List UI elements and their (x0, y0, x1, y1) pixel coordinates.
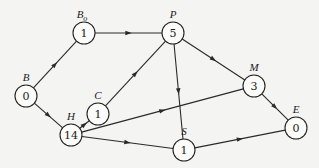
node-value: 1 (81, 27, 88, 40)
edge-m-to-e (262, 94, 288, 120)
node-s: 1S (173, 125, 195, 161)
node-label: E (292, 103, 300, 115)
node-label: H (66, 110, 76, 122)
edge-b-to-h (34, 103, 62, 128)
node-label: Bo (77, 8, 88, 23)
node-p: 5P (162, 8, 184, 44)
arrowhead-icon (124, 140, 131, 144)
edge-p-to-m (182, 39, 245, 80)
node-label: S (181, 125, 187, 137)
node-e: 0E (285, 103, 307, 139)
node-c: 1C (87, 89, 109, 125)
node-h: 14H (60, 110, 82, 146)
edge-b-to-bo (33, 41, 76, 88)
diagram-canvas: 0B1Bo5P1C14H3M1S0E (0, 0, 319, 168)
node-value: 0 (293, 122, 300, 135)
node-label: P (169, 8, 177, 20)
edge-s-to-e (195, 130, 285, 148)
node-bo: 1Bo (73, 8, 95, 44)
arrowhead-icon (125, 31, 131, 35)
node-label: C (94, 89, 102, 101)
edge-h-to-c (80, 121, 90, 128)
arrowhead-icon (159, 109, 166, 113)
node-value: 5 (170, 27, 177, 40)
network-diagram: 0B1Bo5P1C14H3M1S0E (0, 0, 319, 168)
node-b: 0B (15, 71, 37, 107)
arrowhead-icon (210, 56, 217, 61)
node-value: 1 (181, 144, 188, 157)
edge-bo-to-p (95, 31, 162, 35)
node-value: 14 (64, 129, 78, 142)
node-value: 0 (23, 90, 30, 103)
node-label: B (23, 71, 30, 83)
edge-h-to-s (82, 136, 173, 148)
edge-c-to-p (105, 41, 165, 106)
nodes-layer: 0B1Bo5P1C14H3M1S0E (15, 8, 307, 161)
node-value: 3 (251, 80, 258, 93)
node-m: 3M (243, 61, 265, 97)
node-label: M (248, 61, 259, 73)
node-value: 1 (95, 108, 102, 121)
